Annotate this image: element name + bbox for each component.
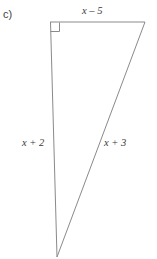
side-label-hypotenuse: x + 3 [104, 138, 126, 149]
side-label-left: x + 2 [22, 138, 44, 149]
side-label-top: x – 5 [82, 6, 102, 17]
triangle-drawing [0, 0, 157, 259]
geometry-figure: c) x – 5 x + 2 x + 3 [0, 0, 157, 259]
triangle-hypotenuse [57, 22, 145, 257]
part-label: c) [3, 9, 12, 20]
triangle-left-side [51, 22, 58, 257]
right-angle-marker-icon [51, 23, 60, 32]
